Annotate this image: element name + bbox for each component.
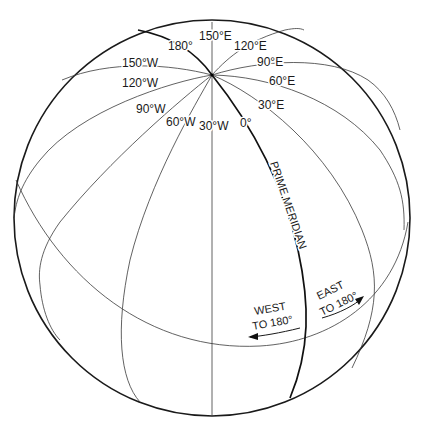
north-pole-point: [210, 73, 213, 76]
prime-meridian-label: PRIME MERIDIAN: [268, 160, 309, 251]
label-30e: 30°E: [258, 98, 284, 112]
label-120e: 120°E: [234, 39, 267, 53]
label-90e: 90°E: [257, 55, 283, 69]
meridian-60e-line: [212, 75, 404, 230]
globe-diagram: 180° 150°E 120°E 90°E 60°E 30°E 0° 30°W …: [0, 0, 424, 422]
west-arrowhead-icon: [248, 333, 258, 340]
label-90w: 90°W: [136, 102, 166, 116]
label-150e: 150°E: [199, 29, 232, 43]
label-0: 0°: [240, 116, 252, 130]
label-30w: 30°W: [199, 119, 229, 133]
label-60w: 60°W: [166, 115, 196, 129]
label-120w: 120°W: [122, 76, 159, 90]
label-60e: 60°E: [269, 74, 295, 88]
label-180: 180°: [168, 39, 193, 53]
label-150w: 150°W: [122, 56, 159, 70]
meridian-120w-line: [14, 75, 212, 218]
